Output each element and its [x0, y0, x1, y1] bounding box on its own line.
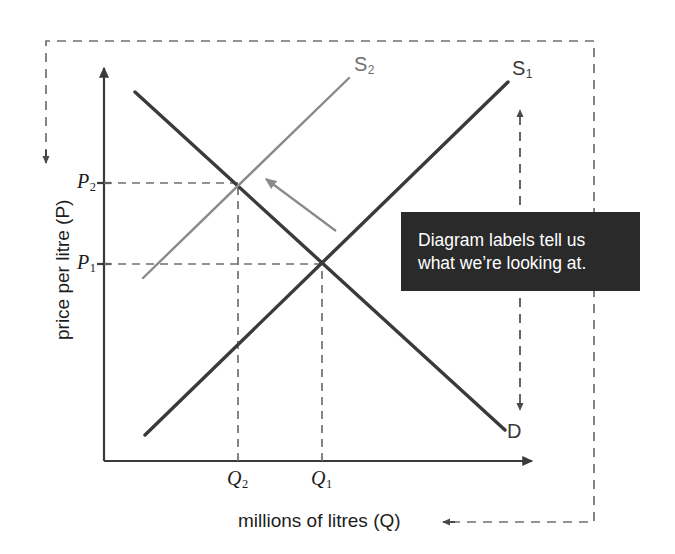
callout-box: Diagram labels tell us what we’re lookin… — [401, 212, 640, 291]
y-axis-label-text: price per litre (P) — [52, 200, 73, 340]
x-axis-label-text: millions of litres (Q) — [238, 510, 401, 531]
supply2-curve — [143, 78, 349, 278]
tick-label-p2-sub: 2 — [89, 180, 96, 194]
tick-label-q2: Q2 — [227, 467, 248, 492]
tick-label-p1: P1 — [77, 251, 96, 276]
tick-label-q2-sub: 2 — [241, 477, 248, 491]
curve-label-supply1: S1 — [512, 57, 533, 81]
curve-label-supply2-sub: 2 — [367, 63, 374, 77]
tick-label-p1-main: P — [77, 251, 89, 273]
tick-label-q2-main: Q — [227, 467, 241, 489]
guide-lines — [104, 183, 324, 461]
curve-label-supply1-main: S — [512, 57, 525, 79]
tick-label-q1-sub: 1 — [325, 477, 332, 491]
tick-label-p2-main: P — [77, 170, 89, 192]
curve-label-supply2-main: S — [354, 53, 367, 75]
curve-label-demand: D — [507, 420, 521, 443]
curve-label-demand-main: D — [507, 420, 521, 442]
y-axis-label: price per litre (P) — [52, 200, 74, 340]
diagram-canvas: price per litre (P) millions of litres (… — [0, 0, 675, 554]
x-axis-label: millions of litres (Q) — [238, 510, 401, 532]
tick-label-q1-main: Q — [311, 467, 325, 489]
tick-label-p1-sub: 1 — [89, 261, 96, 275]
curve-label-supply1-sub: 1 — [525, 67, 532, 81]
callout-line-2: what we’re looking at. — [418, 252, 586, 275]
curve-label-supply2: S2 — [354, 53, 375, 77]
callout-line-1: Diagram labels tell us — [418, 229, 585, 252]
tick-label-q1: Q1 — [311, 467, 332, 492]
tick-label-p2: P2 — [77, 170, 96, 195]
